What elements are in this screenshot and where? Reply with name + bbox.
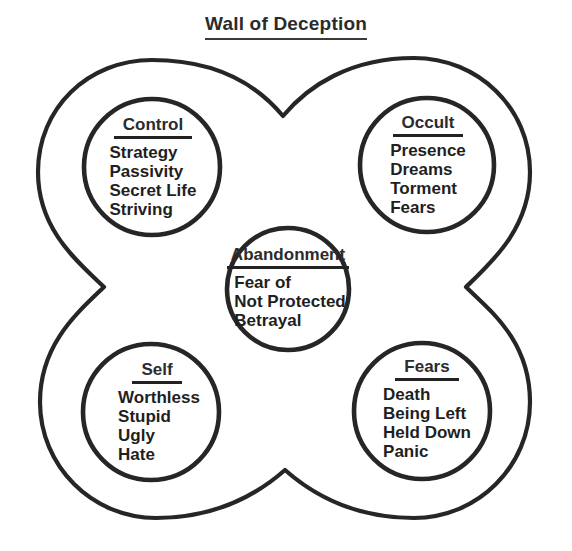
node-fears-item: Being Left [383,404,466,423]
node-occult[interactable]: Occult Presence Dreams Torment Fears [362,114,494,218]
node-fears-item: Held Down [383,423,471,442]
node-abandonment-item: Fear of [234,273,291,292]
node-self[interactable]: Self Worthless Stupid Ugly Hate [92,361,222,465]
node-self-heading: Self [132,361,181,384]
node-occult-heading: Occult [393,114,464,137]
node-fears-item: Panic [383,442,428,461]
node-self-item: Hate [118,445,155,464]
node-abandonment-item: Not Protected [234,292,345,311]
node-self-item: Stupid [118,407,171,426]
node-abandonment-heading: Abandonment [227,246,349,269]
node-occult-item: Fears [390,198,435,217]
node-fears-items: Death Being Left Held Down Panic [383,385,471,462]
node-fears-heading: Fears [395,358,458,381]
node-fears[interactable]: Fears Death Being Left Held Down Panic [358,358,496,462]
node-control-heading: Control [114,116,192,139]
node-self-items: Worthless Stupid Ugly Hate [118,388,200,465]
node-self-item: Worthless [118,388,200,407]
node-control-item: Passivity [110,162,184,181]
node-control-item: Secret Life [110,181,197,200]
node-control-items: Strategy Passivity Secret Life Striving [110,143,197,220]
node-abandonment-items: Fear of Not Protected Betrayal [234,273,345,331]
node-control-item: Strategy [110,143,178,162]
node-occult-items: Presence Dreams Torment Fears [390,141,466,218]
node-occult-item: Dreams [390,160,452,179]
node-abandonment-item: Betrayal [234,311,301,330]
node-self-item: Ugly [118,426,155,445]
node-occult-item: Presence [390,141,466,160]
wall-of-deception-diagram: Wall of Deception Control Strategy Passi… [0,0,572,551]
node-control[interactable]: Control Strategy Passivity Secret Life S… [86,116,220,220]
node-abandonment[interactable]: Abandonment Fear of Not Protected Betray… [210,246,366,330]
node-fears-item: Death [383,385,430,404]
node-control-item: Striving [110,200,173,219]
node-occult-item: Torment [390,179,457,198]
